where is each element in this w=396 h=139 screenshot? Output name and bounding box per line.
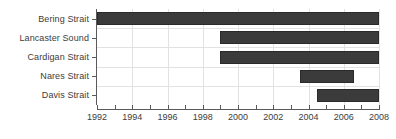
x-axis-tick-label: 1998	[193, 112, 213, 122]
x-axis-tick	[291, 105, 292, 109]
x-axis-tick-label: 2008	[369, 112, 389, 122]
y-axis-tick	[92, 57, 96, 58]
bar-nares-strait	[300, 70, 355, 83]
x-axis-tick	[203, 105, 204, 109]
y-axis-label-davis-strait: Davis Strait	[42, 90, 89, 100]
gridline-vertical	[379, 9, 380, 105]
bar-davis-strait	[317, 89, 379, 102]
x-axis-tick-label: 2006	[334, 112, 354, 122]
gantt-chart: Bering StraitLancaster SoundCardigan Str…	[0, 0, 396, 139]
bar-cardigan-strait	[220, 51, 379, 64]
y-axis-tick	[92, 76, 96, 77]
y-axis-label-nares-strait: Nares Strait	[40, 71, 89, 81]
bar-bering-strait	[97, 12, 379, 25]
x-axis-tick	[238, 105, 239, 109]
x-axis-tick	[185, 105, 186, 109]
x-axis-tick-label: 2000	[228, 112, 248, 122]
y-axis-tick	[92, 38, 96, 39]
plot-area	[97, 9, 379, 105]
x-axis-tick	[256, 105, 257, 109]
x-axis-tick	[150, 105, 151, 109]
x-axis-tick-label: 1996	[157, 112, 177, 122]
x-axis-tick	[168, 105, 169, 109]
x-axis-tick-label: 1994	[122, 112, 142, 122]
x-axis-tick	[379, 105, 380, 109]
bar-lancaster-sound	[220, 31, 379, 44]
x-axis-tick	[344, 105, 345, 109]
x-axis-tick-label: 2004	[298, 112, 318, 122]
y-axis-tick	[92, 95, 96, 96]
y-axis-label-lancaster-sound: Lancaster Sound	[19, 33, 89, 43]
x-axis-tick	[273, 105, 274, 109]
x-axis-tick-label: 1992	[87, 112, 107, 122]
x-axis-line	[97, 109, 380, 110]
y-axis-category-labels: Bering StraitLancaster SoundCardigan Str…	[0, 0, 93, 105]
x-axis-tick	[97, 105, 98, 109]
y-axis-tick	[92, 19, 96, 20]
x-axis-tick	[132, 105, 133, 109]
x-axis-tick	[309, 105, 310, 109]
y-axis-label-cardigan-strait: Cardigan Strait	[27, 52, 89, 62]
x-axis-tick	[326, 105, 327, 109]
x-axis-tick-label: 2002	[263, 112, 283, 122]
x-axis-tick	[361, 105, 362, 109]
x-axis-tick	[220, 105, 221, 109]
y-axis-label-bering-strait: Bering Strait	[38, 14, 89, 24]
x-axis-tick	[115, 105, 116, 109]
